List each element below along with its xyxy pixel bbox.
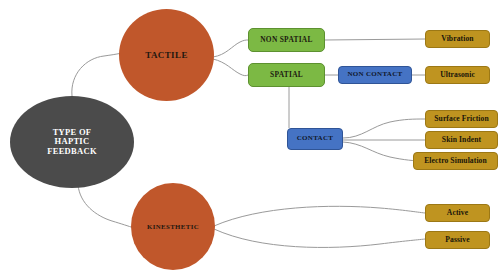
node-non-spatial[interactable]: NON SPATIAL bbox=[248, 28, 325, 52]
edge-non-spatial-to-vibration bbox=[325, 39, 425, 40]
node-root-haptic-feedback[interactable]: TYPE OF HAPTIC FEEDBACK bbox=[10, 96, 134, 188]
node-surface-friction[interactable]: Surface Friction bbox=[425, 110, 498, 128]
node-tactile-label: TACTILE bbox=[145, 50, 188, 60]
node-kinesthetic-label: KINESTHETIC bbox=[147, 223, 199, 231]
root-label-line3: FEEDBACK bbox=[47, 147, 97, 157]
edge-kinesthetic-to-passive bbox=[214, 229, 425, 247]
node-electro-simulation[interactable]: Electro Simulation bbox=[413, 152, 498, 170]
haptic-feedback-diagram: TYPE OF HAPTIC FEEDBACK TACTILE KINESTHE… bbox=[0, 0, 501, 277]
edge-tactile-to-non-spatial bbox=[213, 40, 248, 57]
node-spatial-label: SPATIAL bbox=[270, 71, 303, 79]
node-vibration-label: Vibration bbox=[441, 35, 473, 44]
node-active[interactable]: Active bbox=[425, 204, 490, 222]
node-skin-indent-label: Skin Indent bbox=[442, 136, 481, 145]
node-non-contact[interactable]: NON CONTACT bbox=[338, 66, 412, 84]
node-skin-indent[interactable]: Skin Indent bbox=[425, 131, 498, 149]
node-ultrasonic-label: Ultrasonic bbox=[440, 71, 475, 80]
node-passive[interactable]: Passive bbox=[425, 231, 490, 249]
node-non-spatial-label: NON SPATIAL bbox=[260, 36, 313, 44]
node-electro-simulation-label: Electro Simulation bbox=[424, 157, 487, 166]
node-kinesthetic[interactable]: KINESTHETIC bbox=[131, 183, 215, 270]
node-passive-label: Passive bbox=[445, 236, 469, 245]
node-ultrasonic[interactable]: Ultrasonic bbox=[425, 66, 490, 84]
node-active-label: Active bbox=[447, 209, 468, 218]
node-non-contact-label: NON CONTACT bbox=[347, 71, 402, 79]
node-contact-label: CONTACT bbox=[297, 135, 334, 143]
edge-tactile-to-spatial bbox=[213, 59, 248, 76]
node-tactile[interactable]: TACTILE bbox=[119, 9, 214, 101]
node-spatial[interactable]: SPATIAL bbox=[248, 63, 325, 87]
edge-contact-to-surface-friction bbox=[343, 119, 425, 138]
node-vibration[interactable]: Vibration bbox=[425, 30, 490, 48]
node-surface-friction-label: Surface Friction bbox=[434, 115, 489, 124]
node-contact[interactable]: CONTACT bbox=[287, 128, 343, 150]
edge-root-to-kinesthetic bbox=[78, 185, 134, 228]
edge-kinesthetic-to-active bbox=[214, 206, 425, 226]
